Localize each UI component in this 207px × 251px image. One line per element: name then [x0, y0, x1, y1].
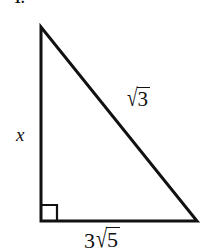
hypotenuse-radicand: 3 — [137, 87, 151, 110]
base-radical: √5 — [96, 228, 120, 251]
label-leg-x: x — [16, 125, 24, 144]
base-radicand: 5 — [106, 227, 120, 251]
base-coefficient: 3 — [84, 230, 95, 251]
label-hypotenuse: √3 — [126, 88, 150, 111]
figure-background — [0, 0, 207, 251]
label-base: 3√5 — [84, 228, 120, 251]
hypotenuse-radical: √3 — [127, 88, 150, 111]
triangle-figure: 1. x √3 3√5 — [0, 0, 207, 251]
problem-number: 1. — [14, 0, 25, 6]
triangle-drawing — [0, 0, 207, 251]
